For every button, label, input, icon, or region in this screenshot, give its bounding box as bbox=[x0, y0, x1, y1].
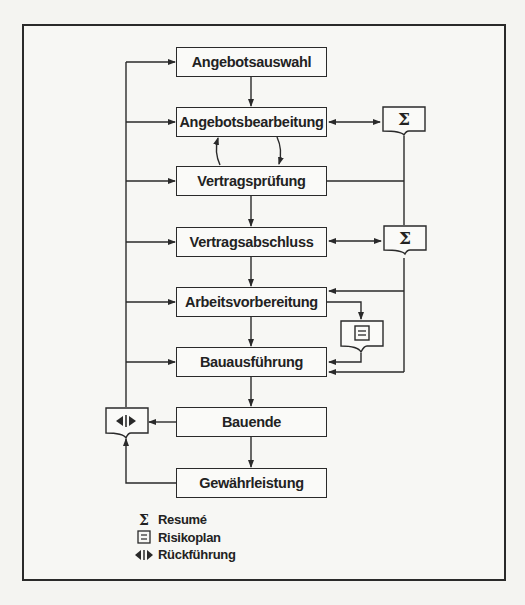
step-gewaehrleistung: Gewährleistung bbox=[176, 468, 327, 498]
step-vertragsabschluss: Vertragsabschluss bbox=[176, 227, 327, 257]
resume-document-2: Σ bbox=[383, 225, 427, 254]
legend: Σ Resumé Risikoplan Rückführung bbox=[130, 511, 236, 564]
legend-label: Resumé bbox=[158, 512, 207, 527]
step-bauausfuehrung: Bauausführung bbox=[176, 347, 327, 377]
legend-item-rueckfuehrung: Rückführung bbox=[130, 546, 236, 564]
rueckfuehrung-document bbox=[105, 407, 149, 436]
bidirectional-arrow-icon bbox=[130, 549, 158, 561]
list-icon bbox=[130, 530, 158, 544]
step-vertragspruefung: Vertragsprüfung bbox=[176, 166, 327, 196]
legend-label: Rückführung bbox=[158, 547, 236, 562]
step-angebotsbearbeitung: Angebotsbearbeitung bbox=[176, 107, 327, 137]
step-angebotsauswahl: Angebotsauswahl bbox=[176, 47, 327, 77]
sigma-icon: Σ bbox=[130, 512, 158, 528]
risikoplan-document bbox=[340, 320, 384, 349]
sigma-icon: Σ bbox=[398, 109, 410, 129]
step-arbeitsvorbereitung: Arbeitsvorbereitung bbox=[176, 287, 327, 317]
legend-item-risikoplan: Risikoplan bbox=[130, 529, 236, 547]
step-bauende: Bauende bbox=[176, 407, 327, 437]
legend-item-resume: Σ Resumé bbox=[130, 511, 236, 529]
sigma-icon: Σ bbox=[399, 228, 411, 248]
legend-label: Risikoplan bbox=[158, 530, 221, 545]
resume-document-1: Σ bbox=[382, 106, 426, 135]
